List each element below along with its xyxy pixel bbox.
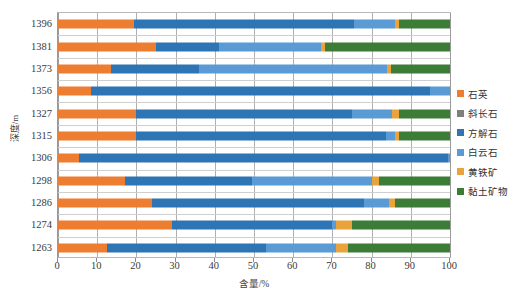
y-tick-label: 1327 xyxy=(0,107,52,118)
legend-swatch-icon xyxy=(457,90,464,97)
legend-item[interactable]: 石英 xyxy=(457,84,517,104)
legend-label: 黄铁矿 xyxy=(468,165,498,179)
y-tick-label: 1306 xyxy=(0,152,52,163)
legend-swatch-icon xyxy=(457,149,464,156)
y-tick-label: 1315 xyxy=(0,130,52,141)
x-axis-tick-labels: 0102030405060708090100 xyxy=(0,260,517,274)
y-tick-label: 1356 xyxy=(0,85,52,96)
x-tick-mark xyxy=(96,258,97,262)
x-tick-mark xyxy=(331,258,332,262)
legend-item[interactable]: 黏土矿物 xyxy=(457,182,517,202)
legend-label: 方解石 xyxy=(468,126,498,140)
x-tick-mark xyxy=(449,258,450,262)
legend-item[interactable]: 斜长石 xyxy=(457,104,517,124)
y-tick-label: 1286 xyxy=(0,197,52,208)
legend-label: 黏土矿物 xyxy=(468,184,508,198)
legend-swatch-icon xyxy=(457,129,464,136)
y-axis-tick-labels: 1396138113731356132713151306129812861274… xyxy=(0,12,517,258)
legend: 石英斜长石方解石白云石黄铁矿黏土矿物 xyxy=(457,84,517,201)
legend-item[interactable]: 白云石 xyxy=(457,143,517,163)
y-tick-label: 1396 xyxy=(0,18,52,29)
legend-label: 斜长石 xyxy=(468,106,498,120)
y-tick-label: 1298 xyxy=(0,174,52,185)
x-axis-title: 含量/% xyxy=(57,276,451,290)
legend-swatch-icon xyxy=(457,168,464,175)
stacked-bar-chart: 深度/m 13961381137313561327131513061298128… xyxy=(0,0,517,304)
x-tick-mark xyxy=(175,258,176,262)
y-tick-label: 1263 xyxy=(0,241,52,252)
legend-label: 白云石 xyxy=(468,145,498,159)
y-tick-label: 1274 xyxy=(0,219,52,230)
x-tick-mark xyxy=(57,258,58,262)
x-tick-mark xyxy=(253,258,254,262)
x-tick-mark xyxy=(410,258,411,262)
legend-label: 石英 xyxy=(468,87,488,101)
legend-item[interactable]: 黄铁矿 xyxy=(457,162,517,182)
legend-swatch-icon xyxy=(457,110,464,117)
x-tick-mark xyxy=(214,258,215,262)
x-tick-mark xyxy=(371,258,372,262)
y-tick-label: 1381 xyxy=(0,40,52,51)
legend-swatch-icon xyxy=(457,188,464,195)
x-tick-mark xyxy=(135,258,136,262)
legend-item[interactable]: 方解石 xyxy=(457,123,517,143)
y-tick-label: 1373 xyxy=(0,62,52,73)
x-tick-mark xyxy=(292,258,293,262)
